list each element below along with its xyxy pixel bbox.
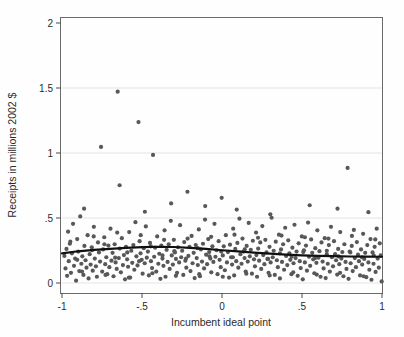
scatter-point <box>303 260 307 264</box>
scatter-point <box>108 227 112 231</box>
scatter-point <box>170 253 174 257</box>
scatter-point <box>273 273 277 277</box>
scatter-point <box>315 228 319 232</box>
scatter-point <box>161 264 165 268</box>
scatter-point <box>78 214 82 218</box>
scatter-point <box>74 279 78 283</box>
scatter-point <box>167 242 171 246</box>
scatter-point <box>160 253 164 257</box>
scatter-point <box>260 224 264 228</box>
scatter-point <box>114 260 118 264</box>
scatter-point <box>123 277 127 281</box>
scatter-point <box>346 277 350 281</box>
scatter-point <box>378 241 382 245</box>
scatter-point <box>166 260 170 264</box>
scatter-point <box>132 268 136 272</box>
scatter-point <box>308 264 312 268</box>
scatter-point <box>335 207 339 211</box>
scatter-point <box>221 275 225 279</box>
scatter-point <box>103 273 107 277</box>
scatter-point <box>298 259 302 263</box>
scatter-point <box>71 222 75 226</box>
scatter-point <box>355 240 359 244</box>
scatter-point <box>65 274 69 278</box>
scatter-point <box>152 255 156 259</box>
scatter-point <box>92 225 96 229</box>
scatter-point <box>360 262 364 266</box>
scatter-point <box>202 266 206 270</box>
scatter-point <box>296 274 300 278</box>
scatter-point <box>69 271 73 275</box>
scatter-point <box>83 258 87 262</box>
scatter-point <box>190 261 194 265</box>
scatter-point <box>232 273 236 277</box>
scatter-point <box>266 257 270 261</box>
scatter-point <box>281 242 285 246</box>
scatter-point <box>346 166 350 170</box>
scatter-point <box>255 275 259 279</box>
y-tick-label-2: 1 <box>47 148 53 159</box>
scatter-point <box>242 256 246 260</box>
scatter-point <box>197 227 201 231</box>
scatter-point <box>179 255 183 259</box>
scatter-point <box>125 250 129 254</box>
scatter-point <box>82 207 86 211</box>
scatter-point <box>274 240 278 244</box>
scatter-point <box>256 236 260 240</box>
scatter-point <box>303 235 307 239</box>
scatter-point <box>156 262 160 266</box>
scatter-point <box>165 248 169 252</box>
scatter-point <box>359 247 363 251</box>
scatter-point <box>120 236 124 240</box>
scatter-point <box>352 228 356 232</box>
scatter-point <box>268 212 272 216</box>
scatter-point <box>207 254 211 258</box>
scatter-point <box>91 269 95 273</box>
scatter-point <box>109 259 113 263</box>
scatter-point <box>231 227 235 231</box>
scatter-point <box>75 237 79 241</box>
scatter-point <box>80 269 84 273</box>
scatter-point <box>283 226 287 230</box>
scatter-point <box>373 245 377 249</box>
scatter-point <box>220 196 224 200</box>
scatter-point <box>158 277 162 281</box>
scatter-point <box>329 225 333 229</box>
y-tick-label-4: 2 <box>47 18 53 29</box>
scatter-point <box>322 266 326 270</box>
scatter-point <box>104 255 108 259</box>
scatter-point <box>275 258 279 262</box>
scatter-point <box>291 261 295 265</box>
scatter-point <box>263 238 267 242</box>
scatter-point <box>68 240 72 244</box>
scatter-point <box>371 262 375 266</box>
y-tick-label-0: 0 <box>47 278 53 289</box>
scatter-point <box>332 239 336 243</box>
scatter-point <box>213 255 217 259</box>
scatter-point <box>369 278 373 282</box>
scatter-point <box>349 261 353 265</box>
scatter-point <box>192 251 196 255</box>
scatter-point <box>137 259 141 263</box>
scatter-point <box>209 235 213 239</box>
scatter-point <box>232 233 236 237</box>
scatter-point <box>138 239 142 243</box>
scatter-point <box>190 234 194 238</box>
scatter-point <box>272 249 276 253</box>
scatter-point <box>227 275 231 279</box>
scatter-point <box>95 275 99 279</box>
scatter-point <box>373 237 377 241</box>
scatter-point <box>269 260 273 264</box>
scatter-point <box>250 272 254 276</box>
x-axis-title: Incumbent ideal point <box>171 316 271 328</box>
scatter-point <box>317 249 321 253</box>
scatter-point <box>99 145 103 149</box>
scatter-point <box>84 266 88 270</box>
chart-canvas: 0.511.52 -1-.50.51 Receipts in millions … <box>0 0 404 337</box>
scatter-point <box>172 249 176 253</box>
scatter-point <box>118 183 122 187</box>
scatter-point <box>294 256 298 260</box>
scatter-point <box>143 210 147 214</box>
scatter-point <box>326 236 330 240</box>
scatter-point <box>276 265 280 269</box>
